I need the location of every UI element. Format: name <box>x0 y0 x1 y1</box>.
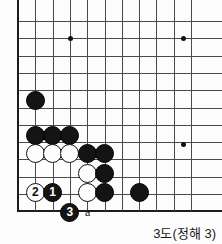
black-stone-move-1[interactable]: 1 <box>43 183 62 202</box>
stone-move-number: 1 <box>49 186 56 198</box>
star-point-top-left <box>68 36 73 41</box>
board-line-vertical <box>139 0 140 211</box>
go-board[interactable]: 213a <box>0 0 222 222</box>
black-stone-wall-a[interactable] <box>26 126 45 145</box>
board-line-vertical <box>156 0 157 211</box>
stone-move-number: 2 <box>32 186 39 198</box>
white-stone-move-2[interactable]: 2 <box>26 183 45 202</box>
star-point-top-right <box>181 36 186 41</box>
go-diagram-root: 213a 3도(정해 3) <box>0 0 222 244</box>
white-stone-inner-b[interactable] <box>78 183 97 202</box>
black-stone-wall-c[interactable] <box>60 126 79 145</box>
black-stone-side-b[interactable] <box>95 183 114 202</box>
board-line-vertical <box>191 0 192 211</box>
board-line-vertical <box>174 0 175 211</box>
board-left-edge <box>17 0 19 211</box>
black-stone-corner-e[interactable] <box>95 144 114 163</box>
black-stone-corner-d[interactable] <box>78 144 97 163</box>
black-stone-side-a[interactable] <box>95 164 114 183</box>
diagram-caption: 3도(정해 3) <box>153 223 216 242</box>
stone-move-number: 3 <box>67 206 74 218</box>
board-line-vertical <box>53 0 54 211</box>
white-stone-row-b[interactable] <box>43 144 62 163</box>
white-stone-row-a[interactable] <box>26 144 45 163</box>
black-stone-move-3[interactable]: 3 <box>60 203 79 222</box>
point-label-a: a <box>85 205 90 220</box>
board-line-vertical <box>70 0 71 211</box>
black-stone-left-upper[interactable] <box>26 91 45 110</box>
black-stone-right-lower[interactable] <box>130 183 149 202</box>
board-line-vertical <box>122 0 123 211</box>
white-stone-inner-a[interactable] <box>78 164 97 183</box>
star-point-right <box>181 142 186 147</box>
black-stone-wall-b[interactable] <box>43 126 62 145</box>
